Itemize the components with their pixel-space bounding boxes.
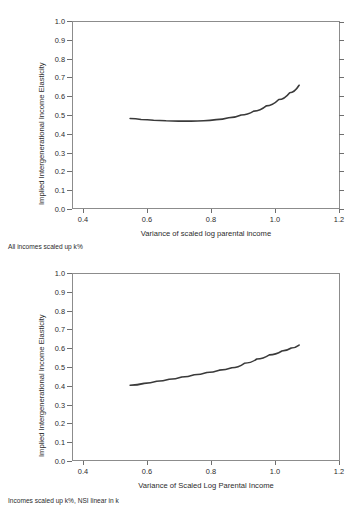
y-tick-group-top — [67, 21, 72, 209]
x-tick-mark-top — [275, 209, 276, 213]
y-tick-mark-bottom — [67, 386, 72, 387]
y-tick-label-top-5: 0.5 — [45, 112, 65, 119]
y-tick-mark-top — [67, 77, 72, 78]
y-tick-label-bottom-2: 0.2 — [45, 420, 65, 427]
x-tick-label-top-1: 0.6 — [133, 216, 161, 223]
x-tick-mark-top — [147, 209, 148, 213]
chart-page: Implied Intergenerational Income Elastic… — [0, 0, 364, 518]
y-tick-mark-top — [67, 115, 72, 116]
y-tick-top-3 — [339, 153, 344, 154]
plot-area-top — [73, 22, 339, 208]
y-tick-mark-top — [67, 21, 72, 22]
y-tick-mark-top — [67, 134, 72, 135]
x-tick-label-bottom-0: 0.4 — [69, 468, 97, 475]
y-tick-label-bottom-4: 0.4 — [45, 383, 65, 390]
x-axis-title-top: Variance of scaled log parental income — [72, 229, 340, 238]
y-tick-top-6 — [339, 96, 344, 97]
y-tick-label-bottom-6: 0.6 — [45, 345, 65, 352]
y-tick-mark-bottom — [67, 348, 72, 349]
y-tick-label-bottom-8: 0.8 — [45, 308, 65, 315]
x-tick-mark-bottom — [83, 461, 84, 465]
plot-frame-bottom — [72, 273, 340, 461]
y-tick-mark-top — [67, 59, 72, 60]
series-line-top — [130, 85, 299, 121]
y-tick-mark-bottom — [67, 292, 72, 293]
chart-panel-bottom: Implied Intergenerational Income Elastic… — [0, 259, 364, 518]
x-tick-mark-bottom — [147, 461, 148, 465]
y-tick-top-2 — [339, 171, 344, 172]
y-tick-mark-bottom — [67, 367, 72, 368]
x-tick-label-bottom-2: 0.8 — [197, 468, 225, 475]
y-tick-mark-top — [67, 153, 72, 154]
y-tick-label-top-6: 0.6 — [45, 93, 65, 100]
x-tick-mark-top — [211, 209, 212, 213]
panel-caption-top: All incomes scaled up k% — [8, 243, 83, 251]
y-tick-mark-bottom — [67, 329, 72, 330]
x-tick-mark-top — [83, 209, 84, 213]
x-tick-group-top — [0, 209, 364, 214]
y-tick-top-5 — [339, 115, 344, 116]
y-tick-label-top-2: 0.2 — [45, 168, 65, 175]
y-tick-top-7 — [339, 77, 344, 78]
x-tick-label-bottom-4: 1.2 — [325, 468, 353, 475]
x-tick-label-top-0: 0.4 — [69, 216, 97, 223]
chart-panel-top: Implied Intergenerational Income Elastic… — [0, 0, 364, 259]
y-tick-label-bottom-9: 0.9 — [45, 289, 65, 296]
y-tick-mark-top — [67, 40, 72, 41]
x-axis-title-bottom: Variance of Scaled Log Parental Income — [72, 481, 340, 490]
x-tick-mark-bottom — [211, 461, 212, 465]
y-tick-label-top-9: 0.9 — [45, 37, 65, 44]
y-tick-top-8 — [339, 59, 344, 60]
y-tick-mark-bottom — [67, 311, 72, 312]
y-tick-label-top-3: 0.3 — [45, 150, 65, 157]
y-tick-label-top-4: 0.4 — [45, 131, 65, 138]
y-tick-top-1 — [339, 190, 344, 191]
y-tick-label-bottom-5: 0.5 — [45, 364, 65, 371]
y-tick-label-top-7: 0.7 — [45, 74, 65, 81]
x-tick-label-top-3: 1.0 — [261, 216, 289, 223]
y-tick-mark-top — [67, 190, 72, 191]
x-tick-label-top-2: 0.8 — [197, 216, 225, 223]
x-tick-mark-bottom — [339, 461, 340, 465]
y-tick-label-bottom-7: 0.7 — [45, 326, 65, 333]
y-tick-label-top-1: 0.1 — [45, 187, 65, 194]
panel-caption-bottom: Incomes scaled up k%, NSI linear in k — [8, 497, 119, 505]
y-tick-label-top-8: 0.8 — [45, 56, 65, 63]
plot-area-bottom — [73, 274, 339, 460]
y-tick-label-bottom-1: 0.1 — [45, 439, 65, 446]
x-tick-label-bottom-1: 0.6 — [133, 468, 161, 475]
x-tick-mark-top — [339, 209, 340, 213]
x-tick-label-bottom-3: 1.0 — [261, 468, 289, 475]
y-tick-group-bottom — [67, 273, 72, 461]
y-tick-label-top-10: 1.0 — [45, 18, 65, 25]
y-tick-mark-bottom — [67, 273, 72, 274]
y-tick-mark-bottom — [67, 423, 72, 424]
x-tick-group-bottom — [0, 461, 364, 466]
x-tick-mark-bottom — [275, 461, 276, 465]
series-line-bottom — [130, 345, 299, 385]
y-tick-mark-top — [67, 171, 72, 172]
y-tick-top-9 — [339, 40, 344, 41]
y-tick-label-bottom-10: 1.0 — [45, 270, 65, 277]
y-tick-mark-bottom — [67, 442, 72, 443]
x-tick-label-top-4: 1.2 — [325, 216, 353, 223]
y-tick-top-10 — [339, 22, 344, 23]
y-tick-top-4 — [339, 134, 344, 135]
y-tick-mark-bottom — [67, 405, 72, 406]
plot-frame-top — [72, 21, 340, 209]
y-tick-label-bottom-3: 0.3 — [45, 402, 65, 409]
y-tick-mark-top — [67, 96, 72, 97]
